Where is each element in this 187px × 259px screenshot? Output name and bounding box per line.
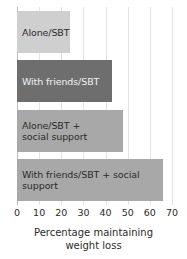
plot-area: Alone/SBT With friends/SBT Alone/SBT + s… [17, 7, 172, 205]
bar-alone-sbt[interactable]: Alone/SBT [17, 11, 70, 53]
x-tick-label: 60 [138, 207, 162, 219]
x-tick-label: 50 [116, 207, 140, 219]
bar-chart-figure: Alone/SBT With friends/SBT Alone/SBT + s… [0, 0, 187, 259]
bar-label: With friends/SBT + social support [17, 169, 163, 191]
x-tick-label: 70 [160, 207, 184, 219]
bar-label: Alone/SBT [17, 27, 69, 38]
x-tick-label: 20 [49, 207, 73, 219]
bar-alone-sbt-social-support[interactable]: Alone/SBT + social support [17, 110, 123, 152]
x-axis-title: Percentage maintaining weight loss [0, 226, 187, 252]
x-tick-label: 30 [71, 207, 95, 219]
x-axis-tick-labels: 010203040506070 [0, 207, 187, 221]
gridline-70 [172, 7, 173, 205]
bar-with-friends-sbt[interactable]: With friends/SBT [17, 60, 112, 102]
bar-series: Alone/SBT With friends/SBT Alone/SBT + s… [17, 7, 172, 205]
bar-label: With friends/SBT [17, 76, 99, 87]
bar-label: Alone/SBT + social support [17, 120, 87, 142]
bar-with-friends-sbt-social-support[interactable]: With friends/SBT + social support [17, 159, 163, 201]
x-tick-label: 0 [5, 207, 29, 219]
x-tick-label: 40 [94, 207, 118, 219]
x-tick-label: 10 [27, 207, 51, 219]
